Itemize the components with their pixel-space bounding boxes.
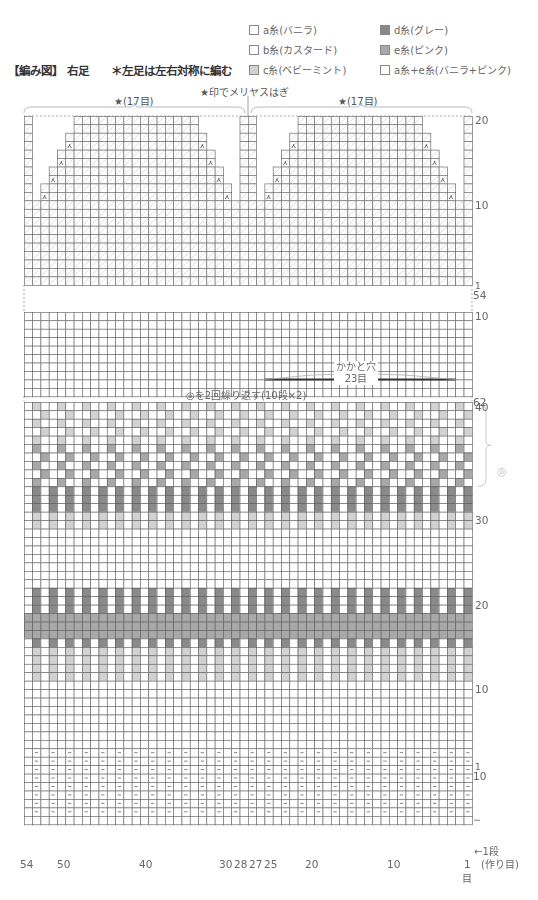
row-label-cw-30: 30 — [475, 515, 488, 525]
col-label-54: 54 — [20, 858, 33, 870]
heel-hole-line2: 23目 — [336, 373, 376, 385]
col-label-40: 40 — [139, 858, 152, 870]
col-label-27: 27 — [249, 858, 262, 870]
row-label-cw-20: 20 — [475, 600, 488, 610]
row-label-toe-54: 54 — [473, 290, 486, 300]
col-label-50: 50 — [57, 858, 70, 870]
col-label-25: 25 — [264, 858, 277, 870]
heel-hole-label: かかと穴 23目 — [334, 361, 378, 385]
col-label-10: 10 — [387, 858, 400, 870]
row-label-cw-40: 40 — [475, 402, 488, 412]
knitting-chart-grid — [0, 0, 538, 900]
repeat-symbol: ◎ — [497, 465, 507, 478]
cast-on-label: (作り目) — [481, 856, 519, 871]
stitch-unit-label: 目 — [462, 870, 472, 885]
heel-hole-line1: かかと穴 — [336, 361, 376, 373]
col-label-30: 30 — [219, 858, 232, 870]
row-label-toe-20: 20 — [475, 115, 488, 125]
row-label-rib-10: 10 — [473, 771, 486, 781]
row-label-heel-10: 10 — [475, 311, 488, 321]
repeat-note: ◎を2回繰り返す(10段×2) — [186, 387, 306, 402]
row-label-cw-10: 10 — [475, 684, 488, 694]
row-label-toe-10: 10 — [475, 200, 488, 210]
col-label-28: 28 — [234, 858, 247, 870]
col-label-20: 20 — [305, 858, 318, 870]
col-label-1: 1 — [464, 858, 471, 870]
